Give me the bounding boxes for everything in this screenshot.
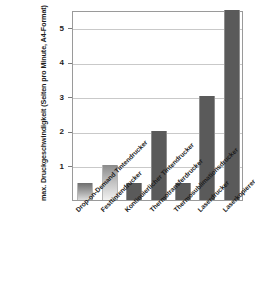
y-axis-tick-label: 3 (50, 93, 64, 102)
bar (224, 10, 240, 200)
y-axis-title: max. Druckgeschwindigkeit (Seiten pro Mi… (37, 3, 51, 203)
bar-chart: max. Druckgeschwindigkeit (Seiten pro Mi… (0, 0, 255, 303)
y-axis-tick-label: 4 (50, 58, 64, 67)
y-axis-tick-label: 2 (50, 127, 64, 136)
y-axis-tick-label: 5 (50, 24, 64, 33)
y-axis-tick-label: 1 (50, 162, 64, 171)
